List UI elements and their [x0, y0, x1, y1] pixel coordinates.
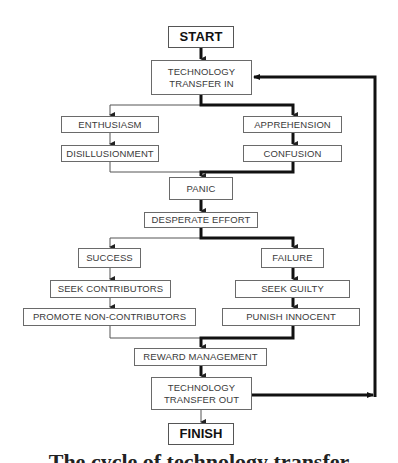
seek-guilty-label: SEEK GUILTY: [261, 283, 324, 295]
disillusionment-label: DISILLUSIONMENT: [66, 148, 154, 160]
apprehension-label: APPREHENSION: [254, 119, 331, 131]
punish-innocent-label: PUNISH INNOCENT: [246, 311, 336, 323]
confusion-node: CONFUSION: [243, 145, 342, 162]
apprehension-node: APPREHENSION: [243, 116, 342, 133]
technology-transfer-out-label-line2: TRANSFER OUT: [164, 394, 239, 406]
desperate-effort-node: DESPERATE EFFORT: [144, 212, 258, 228]
figure-caption: The cycle of technology transfer: [0, 449, 398, 463]
promote-non-contributors-label: PROMOTE NON-CONTRIBUTORS: [33, 311, 186, 323]
technology-transfer-in-label-line1: TECHNOLOGY: [168, 66, 236, 78]
panic-node: PANIC: [169, 177, 233, 200]
confusion-label: CONFUSION: [264, 148, 322, 160]
technology-transfer-out-node: TECHNOLOGY TRANSFER OUT: [151, 377, 252, 410]
seek-contributors-node: SEEK CONTRIBUTORS: [50, 280, 171, 298]
technology-transfer-in-node: TECHNOLOGY TRANSFER IN: [151, 60, 252, 95]
seek-guilty-node: SEEK GUILTY: [235, 280, 350, 298]
success-label: SUCCESS: [86, 252, 133, 264]
reward-management-node: REWARD MANAGEMENT: [134, 348, 267, 366]
failure-node: FAILURE: [261, 248, 324, 268]
seek-contributors-label: SEEK CONTRIBUTORS: [58, 283, 164, 295]
flowchart-canvas: START TECHNOLOGY TRANSFER IN ENTHUSIASM …: [0, 0, 398, 463]
enthusiasm-label: ENTHUSIASM: [78, 119, 141, 131]
disillusionment-node: DISILLUSIONMENT: [61, 145, 159, 162]
start-node: START: [168, 26, 234, 48]
technology-transfer-out-label-line1: TECHNOLOGY: [168, 382, 236, 394]
success-node: SUCCESS: [78, 248, 141, 268]
promote-non-contributors-node: PROMOTE NON-CONTRIBUTORS: [23, 308, 196, 326]
failure-label: FAILURE: [272, 252, 312, 264]
punish-innocent-node: PUNISH INNOCENT: [222, 308, 360, 326]
finish-label: FINISH: [179, 428, 222, 440]
desperate-effort-label: DESPERATE EFFORT: [152, 214, 251, 226]
finish-node: FINISH: [168, 423, 234, 445]
start-label: START: [180, 31, 223, 43]
panic-label: PANIC: [187, 183, 216, 195]
enthusiasm-node: ENTHUSIASM: [61, 116, 159, 133]
reward-management-label: REWARD MANAGEMENT: [143, 351, 257, 363]
technology-transfer-in-label-line2: TRANSFER IN: [169, 78, 233, 90]
